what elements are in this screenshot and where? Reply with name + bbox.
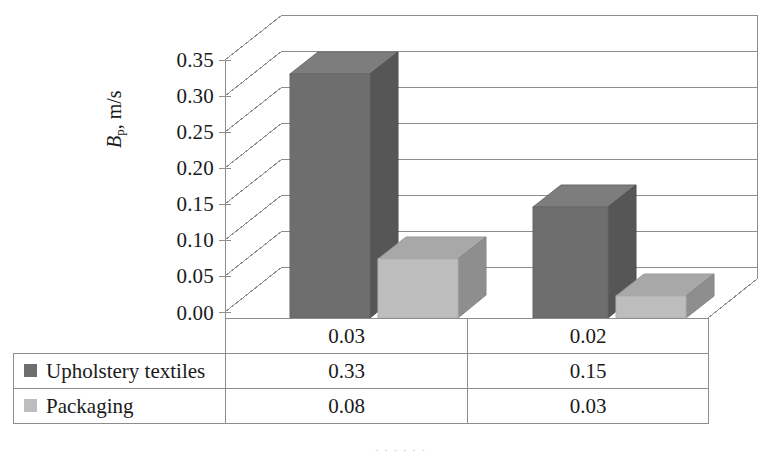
y-tick-label: 0.05 [140, 266, 214, 287]
legend-swatch-upholstery-textiles [24, 364, 37, 377]
y-axis-subscript: p [112, 129, 127, 136]
bar-group1-packaging [378, 237, 486, 318]
y-tick-label: 0.30 [140, 86, 214, 107]
y-tick-label: 0.10 [140, 230, 214, 251]
table-row: Upholstery textiles 0.33 0.15 [14, 354, 709, 389]
y-tick-label: 0.35 [140, 50, 214, 71]
legend-item-upholstery-textiles: Upholstery textiles [14, 354, 226, 389]
legend-label: Upholstery textiles [46, 359, 205, 384]
table-cell-value: 0.15 [468, 354, 709, 389]
y-tick-label: 0.20 [140, 158, 214, 179]
table-cell-value: 0.33 [226, 354, 468, 389]
table-cell-value: 0.08 [226, 389, 468, 424]
table-cell-value: 0.03 [468, 389, 709, 424]
legend-swatch-packaging [24, 399, 37, 412]
y-tick-label: 0.25 [140, 122, 214, 143]
table-cell-blank [14, 319, 226, 354]
table-cell-category: 0.02 [468, 319, 709, 354]
y-tick-label: 0.15 [140, 194, 214, 215]
data-table: 0.03 0.02 Upholstery textiles 0.33 0.15 … [13, 318, 709, 424]
bar-chart-figure: 0.35 0.30 0.25 0.20 0.15 0.10 0.05 0.00 … [0, 0, 763, 451]
table-cell-category: 0.03 [226, 319, 468, 354]
cropped-caption-sliver: · · · · · · [250, 443, 550, 451]
legend-item-packaging: Packaging [14, 389, 226, 424]
legend-label: Packaging [46, 394, 133, 419]
y-axis-unit: , m/s [103, 90, 125, 129]
table-row: Packaging 0.08 0.03 [14, 389, 709, 424]
y-axis-symbol: B [103, 136, 125, 148]
y-axis-title: Bp, m/s [104, 90, 130, 148]
table-row-categories: 0.03 0.02 [14, 319, 709, 354]
